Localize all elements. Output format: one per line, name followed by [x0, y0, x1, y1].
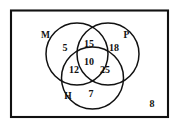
- region-count-h-only: 7: [89, 88, 94, 99]
- venn-diagram-figure: M P H 5 15 18 12 10 25 7 8: [0, 0, 178, 127]
- region-count-p-only: 18: [109, 42, 119, 53]
- region-count-m-and-p: 15: [84, 38, 94, 49]
- region-count-m-only: 5: [63, 42, 68, 53]
- region-count-m-p-and-h: 10: [84, 56, 94, 67]
- set-label-m: M: [41, 30, 50, 40]
- region-count-outside: 8: [150, 98, 155, 109]
- set-label-p: P: [124, 30, 130, 40]
- region-count-m-and-h: 12: [69, 64, 79, 75]
- venn-diagram-canvas: M P H 5 15 18 12 10 25 7 8: [0, 0, 178, 127]
- set-label-h: H: [64, 91, 72, 101]
- region-count-p-and-h: 25: [100, 64, 110, 75]
